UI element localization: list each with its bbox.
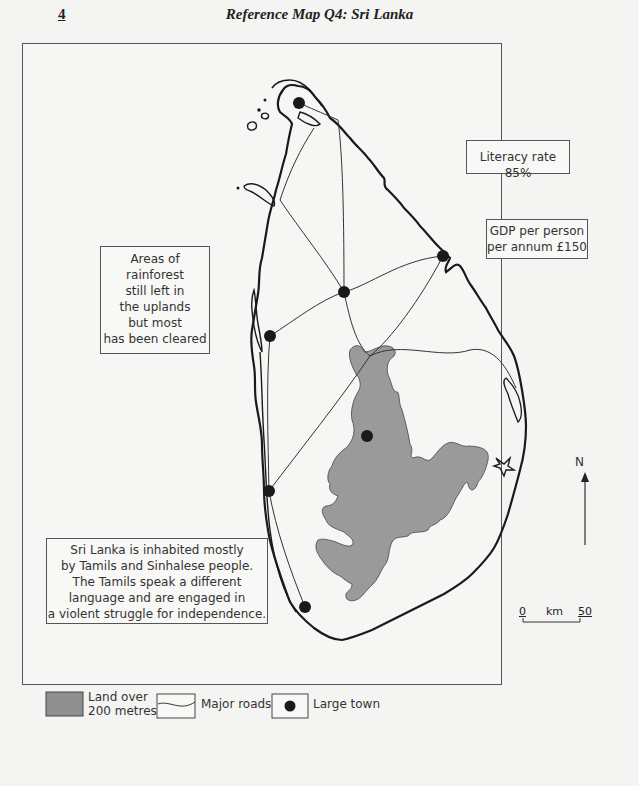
batticaloa-lagoon bbox=[504, 378, 521, 422]
town-colombo bbox=[263, 485, 275, 497]
sri-lanka-map bbox=[0, 0, 639, 786]
island-2 bbox=[261, 113, 268, 119]
highland-area bbox=[316, 346, 488, 601]
town-kandy bbox=[361, 430, 373, 442]
island-1 bbox=[248, 122, 257, 130]
rainforest-line: but most bbox=[101, 315, 209, 331]
north-arrow-head bbox=[581, 472, 589, 482]
people-line: by Tamils and Sinhalese people. bbox=[47, 558, 267, 574]
scale-bar bbox=[523, 618, 580, 622]
town-jaffna bbox=[293, 97, 305, 109]
gdp-note: GDP per person per annum £150 bbox=[486, 219, 588, 259]
islet bbox=[237, 187, 240, 190]
rainforest-line: Areas of bbox=[101, 251, 209, 267]
rainforest-line: still left in bbox=[101, 283, 209, 299]
legend-roads-label: Major roads bbox=[201, 697, 271, 711]
legend-highland-line2: 200 metres bbox=[88, 704, 157, 718]
legend-highland-label: Land over 200 metres bbox=[88, 690, 157, 718]
legend-town-label: Large town bbox=[313, 697, 380, 711]
scale-end: 50 bbox=[578, 605, 592, 618]
gdp-line-1: GDP per person bbox=[487, 223, 587, 239]
rainforest-line: rainforest bbox=[101, 267, 209, 283]
jaffna-lagoon bbox=[298, 112, 320, 126]
literacy-note: Literacy rate 85% bbox=[466, 140, 570, 174]
people-note: Sri Lanka is inhabited mostly by Tamils … bbox=[46, 538, 268, 624]
island-4 bbox=[264, 99, 267, 102]
town-galle bbox=[299, 601, 311, 613]
rainforest-line: has been cleared bbox=[101, 331, 209, 347]
rainforest-line: the uplands bbox=[101, 299, 209, 315]
people-line: a violent struggle for independence. bbox=[47, 606, 267, 622]
legend-roads-box bbox=[157, 694, 195, 718]
people-line: Sri Lanka is inhabited mostly bbox=[47, 542, 267, 558]
mannar-island bbox=[244, 184, 275, 206]
scale-unit: km bbox=[546, 605, 563, 618]
north-label: N bbox=[575, 455, 584, 469]
town-anuradhapura bbox=[338, 286, 350, 298]
people-line: The Tamils speak a different bbox=[47, 574, 267, 590]
legend-highland-swatch bbox=[46, 692, 83, 716]
legend-town-dot bbox=[285, 701, 296, 712]
people-line: language and are engaged in bbox=[47, 590, 267, 606]
airport-icon bbox=[494, 458, 514, 476]
scale-start: 0 bbox=[519, 605, 526, 618]
legend-highland-line1: Land over bbox=[88, 690, 157, 704]
town-trincomalee bbox=[437, 250, 449, 262]
gdp-line-2: per annum £150 bbox=[487, 239, 587, 255]
rainforest-note: Areas of rainforest still left in the up… bbox=[100, 246, 210, 354]
town-puttalam bbox=[264, 330, 276, 342]
island-3 bbox=[257, 108, 261, 112]
